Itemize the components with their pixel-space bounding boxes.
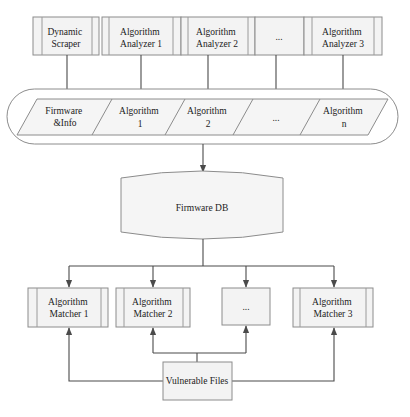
algorithm-analyzer-3-box: Algorithm Analyzer 3 xyxy=(304,17,382,55)
firmware-analysis-diagram: Dynamic Scraper Algorithm Analyzer 1 Alg… xyxy=(0,0,410,417)
algorithm-matcher-3-box: Algorithm Matcher 3 xyxy=(293,288,373,327)
arrow-vf-to-matcher-3 xyxy=(232,328,334,381)
algorithm-matcher-1-box: Algorithm Matcher 1 xyxy=(28,288,108,327)
db-to-matchers-arrows xyxy=(69,239,334,287)
analyzer-row: Dynamic Scraper Algorithm Analyzer 1 Alg… xyxy=(33,17,382,55)
storage-parallelogram xyxy=(17,99,388,135)
firmware-db-label: Firmware DB xyxy=(176,203,229,213)
vulnerable-files-label: Vulnerable Files xyxy=(166,376,229,386)
firmware-db: Firmware DB xyxy=(121,171,283,239)
arrow-vf-to-matcher-1 xyxy=(69,328,163,381)
analyzer-ellipsis-box: ... xyxy=(255,17,304,55)
algorithm-matcher-2-box: Algorithm Matcher 2 xyxy=(116,288,190,327)
dynamic-scraper-box: Dynamic Scraper xyxy=(33,17,99,55)
algorithm-analyzer-2-box: Algorithm Analyzer 2 xyxy=(181,17,255,55)
matcher-ellipsis-box: ... xyxy=(222,288,270,325)
algorithm-analyzer-1-box: Algorithm Analyzer 1 xyxy=(102,17,181,55)
vulnerable-files-box: Vulnerable Files xyxy=(163,362,232,400)
analyzer-ellipsis-label: ... xyxy=(275,32,282,42)
storage-row: Firmware &Info Algorithm 1 Algorithm 2 .… xyxy=(7,89,398,144)
storage-ellipsis-cell: ... xyxy=(272,113,279,123)
matcher-ellipsis-label: ... xyxy=(242,302,249,312)
matcher-row: Algorithm Matcher 1 Algorithm Matcher 2 … xyxy=(28,288,373,327)
